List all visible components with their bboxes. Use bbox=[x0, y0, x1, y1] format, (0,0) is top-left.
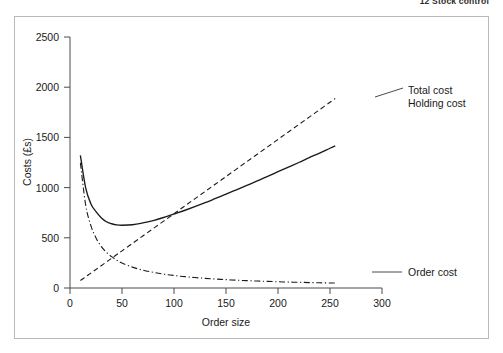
y-tick-label: 2000 bbox=[36, 81, 60, 93]
y-tick-label: 0 bbox=[53, 282, 59, 294]
x-tick-label: 50 bbox=[116, 297, 128, 309]
y-tick-label: 2500 bbox=[36, 31, 60, 43]
x-tick-label: 150 bbox=[217, 297, 235, 309]
series-order-cost bbox=[80, 163, 335, 283]
y-axis-title: Costs (£s) bbox=[21, 138, 33, 186]
x-tick-label: 250 bbox=[321, 297, 339, 309]
series-holding-cost bbox=[80, 99, 335, 281]
annotation-leaders bbox=[372, 88, 403, 272]
series-label-total-cost: Total cost bbox=[408, 84, 452, 96]
leader-line-total bbox=[375, 88, 403, 97]
chart-container: 0 500 1000 1500 2000 2500 0 50 100 150 bbox=[0, 0, 503, 353]
series-total-cost bbox=[80, 146, 335, 225]
y-tick-label: 500 bbox=[41, 232, 59, 244]
x-tick-label: 100 bbox=[165, 297, 183, 309]
y-tick-label: 1500 bbox=[36, 131, 60, 143]
x-tick-label: 300 bbox=[373, 297, 391, 309]
page-root: 12 Stock control 0 500 1000 1500 2000 bbox=[0, 0, 503, 353]
axes bbox=[70, 37, 382, 288]
series-label-order-cost: Order cost bbox=[408, 266, 457, 278]
x-tick-label: 200 bbox=[269, 297, 287, 309]
y-axis-ticks: 0 500 1000 1500 2000 2500 bbox=[36, 31, 70, 294]
cost-curves-chart: 0 500 1000 1500 2000 2500 0 50 100 150 bbox=[0, 0, 503, 353]
x-axis-title: Order size bbox=[202, 316, 251, 328]
x-axis-ticks: 0 50 100 150 200 250 300 bbox=[67, 288, 391, 309]
y-tick-label: 1000 bbox=[36, 182, 60, 194]
x-tick-label: 0 bbox=[67, 297, 73, 309]
series-label-holding-cost: Holding cost bbox=[408, 97, 466, 109]
